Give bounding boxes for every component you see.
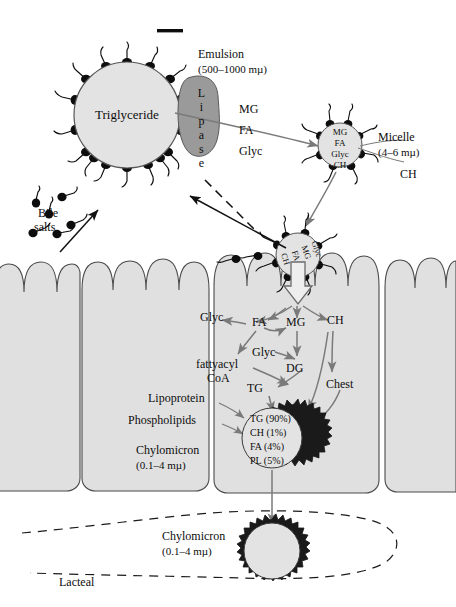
lipase-label: Lipase: [194, 86, 207, 156]
lacteal-label: Lacteal: [59, 576, 94, 589]
product-mg-label: MG: [239, 103, 258, 116]
emulsion-caption-line2: (500–1000 mµ): [198, 63, 267, 75]
lipoprotein-label: Lipoprotein: [148, 392, 205, 405]
node-glyc-1: Glyc: [200, 311, 223, 324]
micelle-content-fa: FA: [324, 138, 356, 148]
chylomicron-in-lacteal: [237, 514, 310, 581]
node-ch: CH: [327, 314, 344, 327]
chylomicron-comp-pl: PL (5%): [250, 455, 284, 466]
micelle-caption-line2: (4–6 mµ): [378, 146, 419, 158]
node-dg: DG: [286, 362, 303, 375]
micelle-content-mg: MG: [324, 127, 356, 137]
micelle-content-glyc: Glyc: [324, 149, 356, 159]
chylomicron-cell-caption-line2: (0.1–4 mµ): [136, 459, 186, 471]
lacteal-chylomicron-caption-line1: Chylomicron: [162, 530, 225, 543]
bile-salts-label-line2: salts: [34, 221, 55, 234]
emulsion-caption-line1: Emulsion: [198, 48, 244, 61]
chylomicron-comp-fa: FA (4%): [250, 441, 284, 452]
diagram-svg: [0, 0, 456, 607]
micelle-caption-line1: Micelle: [378, 131, 415, 144]
chylomicron-comp-ch: CH (1%): [250, 427, 286, 438]
product-fa-label: FA: [239, 124, 253, 137]
node-fa: FA: [252, 316, 266, 329]
bile-salts-label-line1: Bile: [38, 207, 58, 220]
micelle-content-ch: CH: [324, 160, 356, 170]
node-mg: MG: [286, 316, 305, 329]
lacteal-chylomicron-caption-line2: (0.1–4 mµ): [162, 545, 212, 557]
node-fattyacyl: fattyacyl: [196, 358, 238, 371]
phospholipids-label: Phospholipids: [128, 414, 196, 427]
product-glyc-label: Glyc: [239, 145, 262, 158]
node-tg: TG: [247, 382, 263, 395]
node-coa: CoA: [207, 372, 230, 385]
node-glyc-2: Glyc: [252, 346, 275, 359]
triglyceride-label: Triglyceride: [95, 108, 161, 123]
micelle-ch-label: CH: [400, 168, 417, 181]
chylomicron-comp-tg: TG (90%): [250, 413, 291, 424]
node-chest: Chest: [326, 378, 353, 391]
figure-canvas: Triglyceride Emulsion (500–1000 mµ) Lipa…: [0, 0, 456, 607]
chylomicron-cell-caption-line1: Chylomicron: [136, 444, 199, 457]
scale-bar: [157, 29, 183, 32]
